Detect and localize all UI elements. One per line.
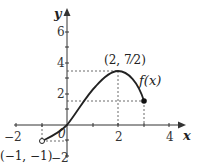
tick-y-neg2: −2 bbox=[51, 151, 69, 165]
function-graph: x y −2 2 4 6 4 2 −2 0 (2, 7⁄2) (−1, −1) … bbox=[0, 0, 199, 166]
tick-y-6: 6 bbox=[57, 25, 65, 39]
y-axis-label: y bbox=[53, 6, 63, 21]
function-name-label: f(x) bbox=[138, 73, 161, 88]
tick-x-2: 2 bbox=[115, 130, 123, 144]
tick-y-4: 4 bbox=[57, 56, 65, 70]
closed-endpoint-marker bbox=[141, 98, 147, 104]
open-endpoint-marker bbox=[40, 139, 45, 144]
tick-x-4: 4 bbox=[166, 130, 174, 144]
peak-point-label: (2, 7⁄2) bbox=[104, 53, 146, 67]
tick-x-neg2: −2 bbox=[4, 130, 22, 144]
x-axis-label: x bbox=[182, 128, 191, 143]
tick-y-2: 2 bbox=[57, 87, 65, 101]
y-axis-arrow-icon bbox=[64, 8, 71, 16]
start-point-label: (−1, −1) bbox=[0, 149, 52, 163]
